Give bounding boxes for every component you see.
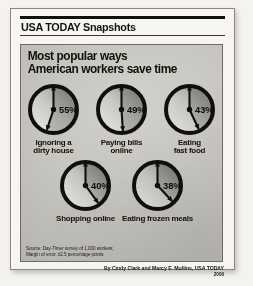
snapshot-page: USA TODAY Snapshots Most popular ways Am… xyxy=(0,0,253,286)
svg-text:49%: 49% xyxy=(127,104,146,114)
byline-credit: By Cindy Clark and Marcy E. Mullins, USA… xyxy=(104,265,224,271)
masthead-bottom-rule xyxy=(20,35,225,36)
headline-line-2: American workers save time xyxy=(28,63,212,76)
clock-eating-fast-food: 43%Eating fast food xyxy=(158,82,221,156)
byline-year: 2006 xyxy=(104,272,224,277)
clock-paying-bills-online: 49%Paying bills online xyxy=(90,82,153,156)
clock-label: Paying bills online xyxy=(101,139,142,156)
clock-ignoring-dirty-house: 55%Ignoring a dirty house xyxy=(22,82,85,156)
source-line-2: Margin of error: ±2.5 percentage points xyxy=(26,252,114,258)
svg-text:38%: 38% xyxy=(163,180,182,190)
chart-panel: Most popular ways American workers save … xyxy=(20,44,223,262)
clock-label: Ignoring a dirty house xyxy=(33,139,73,156)
clipping-frame: USA TODAY Snapshots Most popular ways Am… xyxy=(10,8,235,270)
clock-face-icon: 49% xyxy=(94,82,149,137)
masthead: USA TODAY Snapshots xyxy=(20,16,225,36)
chart-headline: Most popular ways American workers save … xyxy=(21,45,212,77)
clock-label: Eating fast food xyxy=(174,139,206,156)
clock-row-top: 55%Ignoring a dirty house49%Paying bills… xyxy=(21,82,222,156)
clock-face-icon: 43% xyxy=(162,82,217,137)
clock-shopping-online: 40%Shopping online xyxy=(54,158,117,224)
source-note: Source: Day-Timer survey of 1,000 worker… xyxy=(26,246,114,258)
clock-eating-frozen-meals: 38%Eating frozen meals xyxy=(126,158,189,224)
svg-text:55%: 55% xyxy=(59,104,78,114)
svg-text:43%: 43% xyxy=(195,104,214,114)
clock-face-icon: 55% xyxy=(26,82,81,137)
masthead-title: USA TODAY Snapshots xyxy=(20,19,213,35)
clock-face-icon: 38% xyxy=(130,158,185,213)
clock-label: Eating frozen meals xyxy=(122,215,193,224)
clock-row-bottom: 40%Shopping online38%Eating frozen meals xyxy=(21,158,222,224)
clock-label: Shopping online xyxy=(56,215,115,224)
headline-line-1: Most popular ways xyxy=(28,49,128,63)
svg-text:40%: 40% xyxy=(91,180,110,190)
byline: By Cindy Clark and Marcy E. Mullins, USA… xyxy=(104,265,224,277)
clock-face-icon: 40% xyxy=(58,158,113,213)
